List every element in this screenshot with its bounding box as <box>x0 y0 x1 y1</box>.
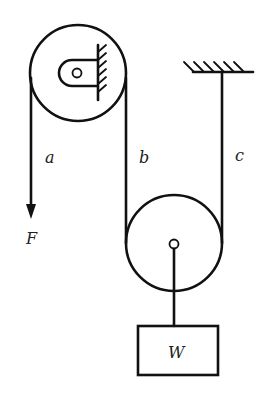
label-weight: W <box>168 343 186 362</box>
label-rope-a: a <box>45 148 55 167</box>
fixed-pulley <box>30 25 126 121</box>
rope-a <box>26 78 36 219</box>
label-rope-b: b <box>139 148 149 167</box>
ceiling-support <box>184 62 253 72</box>
label-rope-c: c <box>235 146 244 165</box>
fixed-pulley-wheel <box>30 25 126 121</box>
label-force: F <box>25 229 38 248</box>
movable-pulley <box>126 195 222 326</box>
fixed-pulley-axle <box>73 69 82 78</box>
ceiling-hatching <box>184 62 244 72</box>
movable-pulley-axle <box>170 240 179 249</box>
force-arrow-icon <box>26 204 36 219</box>
pulley-bracket <box>59 60 97 86</box>
pulley-diagram: a b c F W <box>0 0 269 394</box>
